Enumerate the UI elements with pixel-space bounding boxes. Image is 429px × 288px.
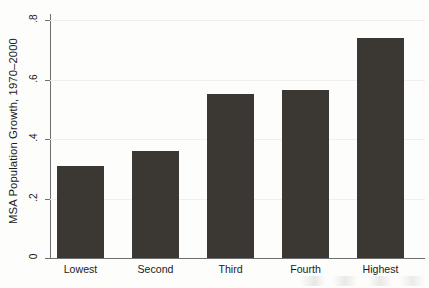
plot-area xyxy=(50,14,425,258)
y-axis-tick-mark xyxy=(45,199,50,200)
bar-highest xyxy=(357,38,404,258)
x-axis-line xyxy=(50,258,425,259)
y-axis-tick-label: 0 xyxy=(28,246,39,268)
bar-fourth xyxy=(282,90,329,258)
y-axis-tick-label: .6 xyxy=(28,67,39,89)
bar-third xyxy=(207,94,254,258)
x-axis-tick-label: Second xyxy=(118,263,193,275)
x-axis-tick-label: Third xyxy=(193,263,268,275)
y-axis-tick-label: .8 xyxy=(28,8,39,30)
bar-second xyxy=(132,151,179,258)
bar-lowest xyxy=(57,166,104,258)
y-gridline xyxy=(50,20,425,21)
x-axis-tick-label: Lowest xyxy=(43,263,118,275)
scan-artifact xyxy=(300,276,425,286)
y-axis-tick-mark xyxy=(45,258,50,259)
y-axis-tick-mark xyxy=(45,20,50,21)
x-axis-tick-label: Fourth xyxy=(268,263,343,275)
y-axis-tick-label: .4 xyxy=(28,127,39,149)
x-axis-tick-label: Highest xyxy=(343,263,418,275)
y-axis-title-container: MSA Population Growth, 1970–2000 xyxy=(0,0,26,262)
y-axis-tick-mark xyxy=(45,80,50,81)
y-axis-tick-label: .2 xyxy=(28,186,39,208)
y-axis-tick-mark xyxy=(45,139,50,140)
y-axis-title: MSA Population Growth, 1970–2000 xyxy=(7,38,19,224)
bar-chart-figure: MSA Population Growth, 1970–2000 0.2.4.6… xyxy=(0,0,429,288)
